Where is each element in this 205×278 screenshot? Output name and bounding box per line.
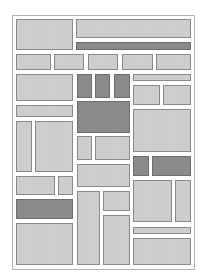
layout-block-light xyxy=(133,227,191,234)
layout-block-dark xyxy=(114,74,130,98)
layout-block-light xyxy=(54,54,84,70)
layout-block-light xyxy=(16,19,73,50)
layout-block-light xyxy=(133,238,191,265)
layout-block-light xyxy=(175,180,191,222)
layout-block-light xyxy=(133,109,191,152)
layout-block-light xyxy=(16,176,55,195)
layout-block-light xyxy=(16,105,73,117)
layout-block-light xyxy=(156,54,191,70)
layout-block-light xyxy=(16,223,73,265)
layout-block-light xyxy=(133,85,160,105)
layout-block-dark xyxy=(95,74,110,98)
layout-block-dark xyxy=(16,199,73,219)
layout-block-light xyxy=(95,136,130,160)
layout-block-light xyxy=(133,74,191,81)
layout-block-dark xyxy=(76,42,191,50)
layout-block-light xyxy=(122,54,153,70)
layout-block-light xyxy=(103,191,130,211)
layout-block-light xyxy=(16,74,73,101)
layout-block-light xyxy=(163,85,191,105)
layout-block-dark xyxy=(77,101,130,133)
layout-block-light xyxy=(76,19,191,38)
layout-block-light xyxy=(133,180,172,222)
layout-block-light xyxy=(77,191,100,265)
layout-block-dark xyxy=(133,156,149,176)
layout-block-light xyxy=(88,54,118,70)
layout-block-dark xyxy=(152,156,191,176)
layout-block-light xyxy=(35,121,73,172)
layout-block-light xyxy=(16,54,51,70)
layout-block-light xyxy=(16,121,32,172)
layout-block-light xyxy=(77,136,92,160)
layout-block-light xyxy=(58,176,73,195)
layout-block-light xyxy=(77,164,130,187)
layout-block-light xyxy=(103,215,130,265)
layout-block-dark xyxy=(77,74,92,98)
